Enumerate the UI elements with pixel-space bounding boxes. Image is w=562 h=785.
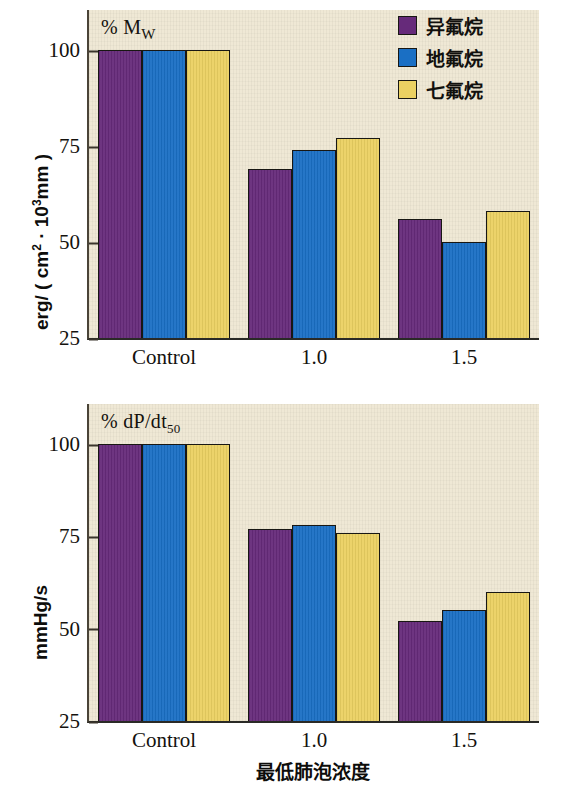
bar-texture <box>143 445 185 721</box>
x-axis-label-bottom: 最低肺泡浓度 <box>87 757 539 784</box>
legend-label: 地氟烷 <box>426 44 483 71</box>
bar-texture <box>399 220 441 338</box>
y-axis-tick-100: 100 <box>49 434 90 455</box>
bar-texture <box>99 445 141 721</box>
bar-七氟烷 <box>336 533 380 721</box>
bar-地氟烷 <box>142 50 186 338</box>
bar-texture <box>249 530 291 721</box>
bar-texture <box>487 593 529 721</box>
y-axis-tick-75: 75 <box>59 136 89 157</box>
bar-异氟烷 <box>248 169 292 338</box>
x-axis-tick-control: Control <box>132 728 196 753</box>
legend-label: 异氟烷 <box>426 12 483 39</box>
y-axis-tick-100: 100 <box>49 40 90 61</box>
bar-地氟烷 <box>142 444 186 721</box>
y-axis-tick-50: 50 <box>59 618 89 639</box>
bar-异氟烷 <box>398 219 442 338</box>
bar-异氟烷 <box>248 529 292 721</box>
bar-地氟烷 <box>292 525 336 721</box>
bar-地氟烷 <box>292 150 336 338</box>
bar-地氟烷 <box>442 242 486 338</box>
bar-七氟烷 <box>486 211 530 338</box>
bar-texture <box>99 51 141 338</box>
bar-texture <box>249 170 291 338</box>
bar-texture <box>443 243 485 338</box>
bar-异氟烷 <box>98 444 142 721</box>
bar-texture <box>399 622 441 721</box>
chart-panel-bottom: % dP/dt50 100755025Control1.01.5 <box>87 404 539 723</box>
chart-title-bottom: % dP/dt50 <box>101 410 181 437</box>
bar-texture <box>187 51 229 338</box>
chart-title-top: % MW <box>101 16 156 43</box>
bar-texture <box>337 534 379 721</box>
legend-item: 七氟烷 <box>398 76 483 102</box>
legend-item: 地氟烷 <box>398 44 483 70</box>
x-axis-tick-1.0: 1.0 <box>301 345 327 370</box>
bar-地氟烷 <box>442 610 486 721</box>
bar-texture <box>337 139 379 338</box>
x-axis-tick-1.5: 1.5 <box>451 728 477 753</box>
y-axis-tick-75: 75 <box>59 526 89 547</box>
bar-group-control: Control <box>89 50 239 338</box>
y-axis-tick-25: 25 <box>59 328 89 349</box>
y-axis-label-top: erg/ ( cm2 · 103mm ) <box>30 154 53 330</box>
legend-swatch-icon <box>398 48 417 67</box>
plot-area-bottom: 100755025Control1.01.5 <box>89 444 539 721</box>
y-axis-label-bottom: mmHg/s <box>30 585 52 660</box>
x-axis-tick-1.0: 1.0 <box>301 728 327 753</box>
legend-swatch-icon <box>398 80 417 99</box>
y-axis-tick-25: 25 <box>59 711 89 732</box>
legend-swatch-icon <box>398 16 417 35</box>
bar-texture <box>443 611 485 721</box>
bar-七氟烷 <box>186 50 230 338</box>
y-axis-tick-50: 50 <box>59 232 89 253</box>
bar-异氟烷 <box>98 50 142 338</box>
figure-canvas: % MW 100755025Control1.01.5 erg/ ( cm2 ·… <box>0 0 562 785</box>
bar-异氟烷 <box>398 621 442 721</box>
bar-texture <box>487 212 529 338</box>
bar-texture <box>293 526 335 721</box>
bar-group-control: Control <box>89 444 239 721</box>
x-axis-tick-control: Control <box>132 345 196 370</box>
bar-group-1.5: 1.5 <box>389 444 539 721</box>
bar-group-1.0: 1.0 <box>239 444 389 721</box>
bar-七氟烷 <box>486 592 530 721</box>
legend-item: 异氟烷 <box>398 12 483 38</box>
x-axis-tick-1.5: 1.5 <box>451 345 477 370</box>
bar-texture <box>293 151 335 338</box>
legend-label: 七氟烷 <box>426 76 483 103</box>
bar-group-1.0: 1.0 <box>239 50 389 338</box>
bar-texture <box>187 445 229 721</box>
legend: 异氟烷 地氟烷 七氟烷 <box>398 12 483 108</box>
bar-七氟烷 <box>336 138 380 338</box>
bar-七氟烷 <box>186 444 230 721</box>
bar-texture <box>143 51 185 338</box>
